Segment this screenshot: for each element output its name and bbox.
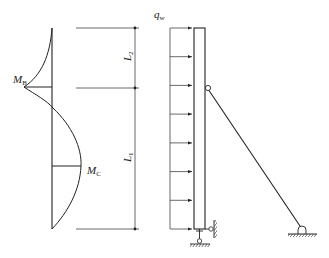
strut-pin-support <box>288 226 317 237</box>
qw-label: qw <box>154 8 166 22</box>
hinge-icon <box>205 85 210 90</box>
moment-curve-span <box>52 108 81 229</box>
load-arrows <box>170 28 192 229</box>
mc-label: MC <box>86 164 101 178</box>
moment-curve-upper <box>24 28 52 87</box>
structural-diagram: MB MC L2 L1 qw <box>0 0 329 258</box>
wind-load: qw <box>154 8 192 229</box>
l1-label: L1 <box>121 152 135 163</box>
column <box>194 28 205 229</box>
strut <box>205 85 302 229</box>
dimension-lines: L2 L1 <box>76 27 139 231</box>
moment-curve-mb-to-zero <box>24 87 53 108</box>
l2-label: L2 <box>121 51 135 62</box>
moment-diagram: MB MC <box>12 28 101 229</box>
mb-label: MB <box>12 73 27 87</box>
